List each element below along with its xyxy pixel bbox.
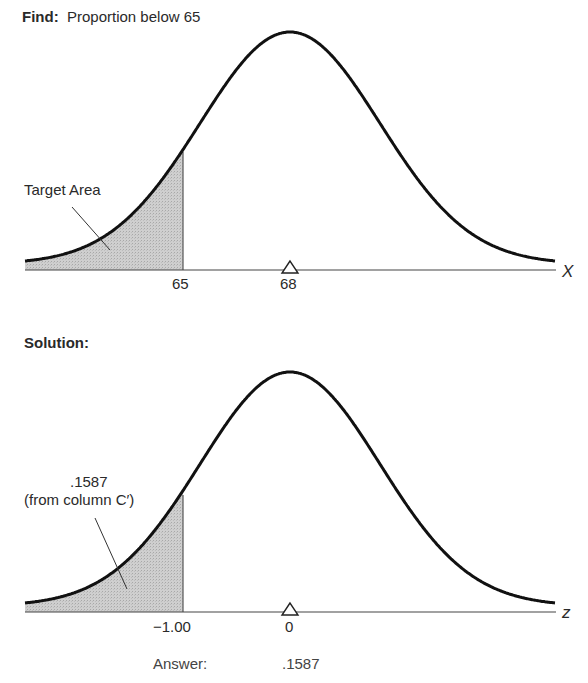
top-normal-curve — [25, 32, 555, 261]
bottom-shaded-area — [25, 491, 183, 612]
top-axis-variable: X — [562, 262, 573, 282]
bottom-mean-triangle-icon — [282, 603, 298, 615]
area-value-label: .1587 — [70, 473, 108, 490]
top-mean-triangle-icon — [282, 261, 298, 273]
answer-label: Answer: — [153, 655, 207, 672]
solution-heading: Solution: — [24, 334, 89, 351]
bottom-cutoff-tick-label: −1.00 — [153, 618, 191, 635]
area-source-label: (from column C′) — [24, 491, 134, 508]
find-heading: Find: Proportion below 65 — [22, 8, 200, 25]
find-text: Proportion below 65 — [67, 8, 200, 25]
top-normal-curve-chart — [25, 32, 556, 273]
top-shaded-target-area — [25, 150, 183, 270]
top-mean-tick-label: 68 — [280, 275, 297, 292]
bottom-mean-tick-label: 0 — [285, 618, 293, 635]
solution-label: Solution: — [24, 334, 89, 351]
answer-value: .1587 — [282, 655, 320, 672]
top-cutoff-tick-label: 65 — [172, 275, 189, 292]
bottom-axis-variable: z — [562, 603, 571, 623]
find-label: Find: — [22, 8, 59, 25]
target-area-label: Target Area — [24, 181, 101, 198]
